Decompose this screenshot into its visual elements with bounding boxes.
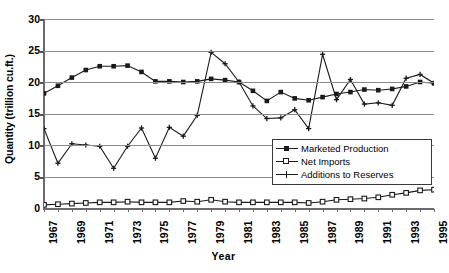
- x-axis-tick-mark: [100, 209, 101, 212]
- x-axis-tick-mark: [337, 209, 338, 212]
- data-point-marker: [292, 96, 297, 101]
- data-point-marker: [320, 52, 325, 57]
- x-axis-tick-mark: [86, 209, 87, 212]
- data-point-marker: [362, 87, 367, 92]
- x-axis-tick-label: 1971: [104, 221, 114, 244]
- data-point-marker: [348, 90, 353, 95]
- x-axis-tick-label: 1973: [132, 221, 142, 244]
- y-axis-tick-label: 25: [18, 45, 40, 55]
- legend-marker-open-square-icon: [276, 156, 298, 167]
- data-point-marker: [83, 201, 88, 206]
- open-square-icon: [283, 158, 289, 164]
- data-point-marker: [432, 187, 434, 192]
- data-point-marker: [111, 64, 116, 69]
- data-point-marker: [292, 200, 297, 205]
- x-axis-tick-label: 1989: [354, 221, 364, 244]
- data-point-marker: [278, 200, 283, 205]
- filled-square-icon: [284, 146, 289, 151]
- y-axis-tick-label: 0: [18, 203, 40, 213]
- x-axis-tick-mark: [142, 209, 143, 212]
- y-axis-tick-mark: [40, 114, 44, 116]
- data-point-marker: [167, 125, 172, 130]
- x-axis-tick-mark: [169, 209, 170, 212]
- data-point-marker: [44, 91, 46, 96]
- x-axis-tick-mark: [44, 209, 45, 212]
- data-point-marker: [97, 64, 102, 69]
- legend-item-label: Additions to Reserves: [298, 169, 393, 180]
- x-axis-tick-label: 1969: [76, 221, 86, 244]
- data-point-marker: [139, 200, 144, 205]
- x-axis-tick-mark: [392, 209, 393, 212]
- data-point-marker: [44, 203, 46, 208]
- x-axis-tick-mark: [434, 209, 435, 212]
- x-axis-tick-mark: [114, 209, 115, 212]
- x-axis-tick-label: 1977: [187, 221, 197, 244]
- gridline: [44, 51, 434, 52]
- data-point-marker: [362, 101, 367, 106]
- data-point-marker: [209, 77, 214, 82]
- data-point-marker: [376, 100, 381, 105]
- x-axis-tick-label: 1995: [438, 221, 448, 244]
- data-point-marker: [404, 76, 409, 81]
- data-point-marker: [265, 200, 270, 205]
- data-point-marker: [320, 199, 325, 204]
- legend-marker-filled-square-icon: [276, 143, 298, 154]
- x-axis-tick-mark: [155, 209, 156, 212]
- data-point-marker: [83, 68, 88, 73]
- x-axis-tick-label: 1979: [215, 221, 225, 244]
- y-axis-tick-label: 15: [18, 108, 40, 118]
- data-point-marker: [70, 75, 75, 80]
- x-axis-tick-label: 1975: [159, 221, 169, 244]
- legend-item: Marketed Production: [276, 142, 427, 155]
- x-axis-tick-mark: [239, 209, 240, 212]
- gridline: [44, 82, 434, 83]
- gridline: [44, 114, 434, 115]
- x-axis-tick-mark: [225, 209, 226, 212]
- y-axis-tick-mark: [40, 145, 44, 147]
- x-axis-tick-label: 1993: [410, 221, 420, 244]
- data-point-marker: [153, 200, 158, 205]
- x-axis-tick-mark: [420, 209, 421, 212]
- data-point-marker: [417, 72, 422, 77]
- data-point-marker: [139, 70, 144, 75]
- data-point-marker: [56, 83, 61, 88]
- data-point-marker: [404, 84, 409, 89]
- x-axis-tick-mark: [323, 209, 324, 212]
- data-point-marker: [278, 115, 283, 120]
- y-axis-tick-label: 20: [18, 77, 40, 87]
- data-point-marker: [167, 200, 172, 205]
- data-point-marker: [251, 89, 256, 94]
- x-axis-tick-mark: [197, 209, 198, 212]
- chart-legend: Marketed ProductionNet ImportsAdditions …: [272, 139, 432, 185]
- x-axis-tick-mark: [406, 209, 407, 212]
- data-point-marker: [56, 202, 61, 207]
- x-axis-tick-mark: [350, 209, 351, 212]
- data-point-marker: [390, 103, 395, 108]
- x-axis-tick-mark: [253, 209, 254, 212]
- data-point-marker: [265, 99, 270, 104]
- data-point-marker: [362, 196, 367, 201]
- data-point-marker: [404, 191, 409, 196]
- data-point-marker: [125, 63, 130, 68]
- legend-item-label: Marketed Production: [298, 143, 389, 154]
- data-point-marker: [237, 200, 242, 205]
- y-axis-tick-labels: 051015202530: [18, 0, 40, 273]
- x-axis-tick-mark: [128, 209, 129, 212]
- x-axis-tick-mark: [378, 209, 379, 212]
- data-point-marker: [125, 199, 130, 204]
- data-point-marker: [390, 192, 395, 197]
- data-point-marker: [111, 166, 116, 171]
- x-axis-tick-mark: [309, 209, 310, 212]
- y-axis-title: Quantity (trillion cu.ft.): [2, 5, 16, 213]
- x-axis-tick-mark: [267, 209, 268, 212]
- x-axis-tick-labels: 1967196919711973197519771979198119831985…: [44, 214, 434, 250]
- data-point-marker: [97, 200, 102, 205]
- legend-item: Additions to Reserves: [276, 168, 427, 181]
- data-point-marker: [181, 199, 186, 204]
- data-point-marker: [111, 200, 116, 205]
- data-point-marker: [195, 199, 200, 204]
- data-point-marker: [376, 88, 381, 93]
- data-point-marker: [376, 195, 381, 200]
- y-axis-tick-mark: [40, 177, 44, 179]
